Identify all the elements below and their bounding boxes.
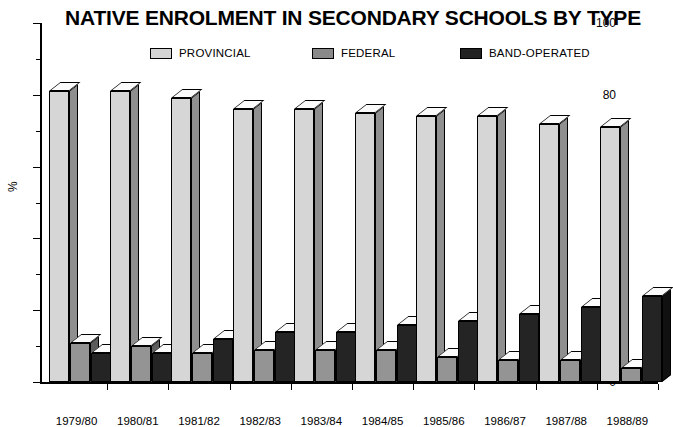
bar-front-face [376,350,396,382]
bar-side-face [191,91,200,382]
bar-front-face [294,109,314,382]
y-axis-minor-tick [36,203,40,204]
x-axis-tick [597,384,598,390]
bar-federal [621,368,641,382]
bar-front-face [171,98,191,382]
x-axis-tick-label: 1986/87 [470,415,540,427]
bar-provincial [171,98,191,382]
x-axis-tick-label: 1983/84 [286,415,356,427]
y-axis-minor-tick [36,59,40,60]
x-axis-tick-label: 1981/82 [164,415,234,427]
bar-provincial [600,127,620,382]
y-axis-title: % [6,181,20,192]
bar-front-face [416,116,436,382]
bar-side-face [253,102,262,382]
bar-band-operated [581,307,601,382]
y-axis-tick [33,167,40,168]
x-axis-line [40,382,658,384]
x-axis-tick-label: 1988/89 [592,415,662,427]
bar-side-face [559,116,568,382]
bar-front-face [131,346,151,382]
x-axis-tick [107,384,108,390]
bar-band-operated [213,339,233,382]
x-axis-tick [291,384,292,390]
plot-area: 0204060801001979/801980/811981/821982/83… [40,23,658,384]
bar-band-operated [458,321,478,382]
bar-band-operated [91,353,111,382]
y-axis-tick [33,238,40,239]
bar-provincial [110,91,130,382]
bar-front-face [315,350,335,382]
bar-front-face [91,353,111,382]
x-axis-tick-label: 1980/81 [103,415,173,427]
x-axis-tick [352,384,353,390]
bar-federal [254,350,274,382]
bar-front-face [621,368,641,382]
bar-front-face [477,116,497,382]
bar-band-operated [519,314,539,382]
bar-federal [376,350,396,382]
bar-front-face [233,109,253,382]
bar-front-face [254,350,274,382]
y-axis-tick [33,382,40,383]
bar-side-face [497,109,506,382]
bar-front-face [110,91,130,382]
bar-front-face [192,353,212,382]
y-axis-line [40,23,42,384]
y-axis-tick [33,310,40,311]
bar-front-face [213,339,233,382]
y-axis-minor-tick [36,274,40,275]
bar-side-face [620,120,629,382]
bar-side-face [130,84,139,382]
x-axis-tick [536,384,537,390]
bar-band-operated [336,332,356,382]
x-axis-tick-label: 1979/80 [42,415,112,427]
bar-federal [560,360,580,382]
bar-front-face [275,332,295,382]
x-axis-tick-label: 1985/86 [409,415,479,427]
bar-front-face [437,357,457,382]
bar-front-face [152,353,172,382]
y-axis-tick [33,95,40,96]
y-axis-minor-tick [36,346,40,347]
bar-side-face [314,102,323,382]
x-axis-tick-label: 1982/83 [225,415,295,427]
bar-front-face [336,332,356,382]
bar-front-face [560,360,580,382]
bar-provincial [416,116,436,382]
x-axis-tick [658,384,659,390]
bar-provincial [49,91,69,382]
bar-provincial [233,109,253,382]
bar-front-face [458,321,478,382]
bar-front-face [70,343,90,382]
bar-federal [498,360,518,382]
bar-provincial [539,124,559,382]
bar-provincial [294,109,314,382]
y-axis-tick-label: 100 [586,17,616,29]
x-axis-tick-label: 1987/88 [531,415,601,427]
bar-side-face [436,109,445,382]
bar-front-face [498,360,518,382]
bar-federal [437,357,457,382]
bar-front-face [519,314,539,382]
y-axis-minor-tick [36,131,40,132]
x-axis-tick-label: 1984/85 [348,415,418,427]
x-axis-tick [230,384,231,390]
bar-federal [131,346,151,382]
bar-federal [70,343,90,382]
bar-federal [192,353,212,382]
bar-front-face [642,296,662,382]
bar-side-face [662,289,671,382]
bar-front-face [355,113,375,382]
bar-band-operated [642,296,662,382]
bar-front-face [397,325,417,382]
x-axis-tick [413,384,414,390]
bar-front-face [49,91,69,382]
bar-provincial [477,116,497,382]
bar-front-face [539,124,559,382]
bar-band-operated [275,332,295,382]
bar-band-operated [397,325,417,382]
x-axis-tick [168,384,169,390]
x-axis-tick [474,384,475,390]
